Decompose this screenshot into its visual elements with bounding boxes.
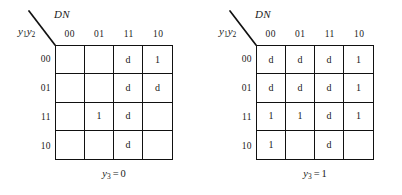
column-header: 11 (114, 26, 144, 42)
kmap-cell (143, 131, 172, 159)
kmap-cell: 1 (85, 103, 114, 131)
kmap-cell: d (286, 74, 315, 102)
column-header: 00 (55, 26, 85, 42)
kmap-cell: d (315, 103, 344, 131)
kmap-grid: d d d 1 d d d 1 1 1 d 1 1 d (256, 45, 374, 160)
kmap-cell (56, 103, 85, 131)
row-headers: 00 01 11 10 (223, 45, 253, 160)
row-header: 00 (223, 45, 253, 74)
column-header: 01 (85, 26, 115, 42)
kmap-cell: d (114, 131, 143, 159)
column-variable-label: DN (255, 8, 271, 20)
row-headers: 00 01 11 10 (22, 45, 52, 160)
row-variable-label: y1y2 (18, 25, 35, 37)
row-header: 00 (22, 45, 52, 74)
kmap-cell: 1 (344, 74, 373, 102)
row-header: 01 (22, 74, 52, 103)
kmap-cell: d (286, 46, 315, 74)
karnaugh-map-y3-equals-0: DN y1y2 00 01 11 10 00 01 11 10 d 1 d d … (0, 0, 201, 195)
kmap-cell: 1 (286, 103, 315, 131)
kmap-cell: 1 (257, 131, 286, 159)
kmap-cell: d (315, 131, 344, 159)
column-variable-label: DN (54, 8, 70, 20)
kmap-cell (56, 74, 85, 102)
kmap-cell: 1 (143, 46, 172, 74)
kmap-cell: d (257, 74, 286, 102)
kmap-cell: d (315, 46, 344, 74)
kmap-cell: d (114, 74, 143, 102)
column-header: 10 (144, 26, 174, 42)
column-headers: 00 01 11 10 (55, 26, 173, 42)
kmap-cell (143, 103, 172, 131)
kmap-cell: d (257, 46, 286, 74)
column-header: 01 (286, 26, 316, 42)
kmap-cell (56, 46, 85, 74)
column-header: 00 (256, 26, 286, 42)
kmap-cell: 1 (257, 103, 286, 131)
row-head: 10 (223, 131, 253, 160)
kmap-cell (344, 131, 373, 159)
row-header: 10 (22, 131, 52, 160)
row-header: 11 (22, 103, 52, 132)
column-headers: 00 01 11 10 (256, 26, 374, 42)
row-header: 11 (223, 103, 253, 132)
map-caption: y3=1 (256, 168, 374, 179)
kmap-cell (85, 74, 114, 102)
kmap-cell (85, 131, 114, 159)
kmap-cell (286, 131, 315, 159)
karnaugh-map-y3-equals-1: DN y1y2 00 01 11 10 00 01 11 10 d d d 1 … (201, 0, 402, 195)
kmap-cell: d (114, 103, 143, 131)
column-header: 10 (345, 26, 375, 42)
row-header: 01 (223, 74, 253, 103)
kmap-cell: d (114, 46, 143, 74)
row-variable-label: y1y2 (219, 25, 236, 37)
kmap-cell: d (143, 74, 172, 102)
kmap-cell: 1 (344, 46, 373, 74)
kmap-cell (56, 131, 85, 159)
kmap-cell: d (315, 74, 344, 102)
map-caption: y3=0 (55, 168, 173, 179)
kmap-cell: 1 (344, 103, 373, 131)
column-header: 11 (315, 26, 345, 42)
kmap-grid: d 1 d d 1 d d (55, 45, 173, 160)
kmap-cell (85, 46, 114, 74)
